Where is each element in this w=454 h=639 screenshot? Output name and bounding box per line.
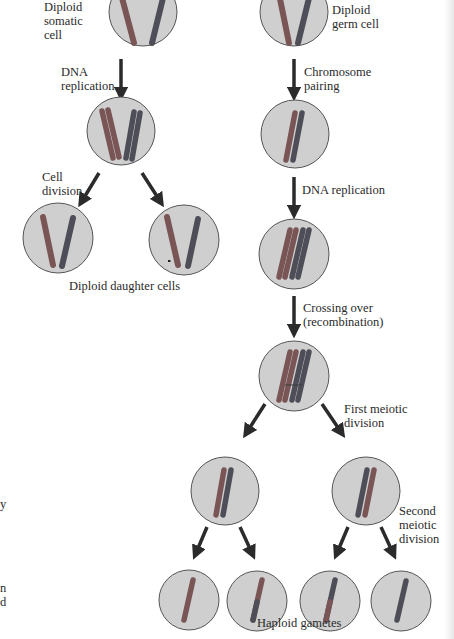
arrow-first-meiotic-right xyxy=(322,404,341,432)
cell-diploid-somatic xyxy=(109,0,177,46)
cell-haploid-gamete-1 xyxy=(159,570,219,630)
label-chromosome-pairing: Chromosome pairing xyxy=(304,65,371,93)
cell-replicated-tetrad xyxy=(259,219,329,289)
cell-crossing-over xyxy=(259,341,329,411)
label-haploid-gametes: Haploid gametes xyxy=(257,616,341,630)
cell-chromosome-paired xyxy=(261,100,329,168)
label-diploid-daughter-cells: Diploid daughter cells xyxy=(69,279,180,293)
arrow-cell-division-right xyxy=(142,173,160,201)
label-cell-division: Cell division xyxy=(42,170,82,198)
cell-meiosis-i-product-1 xyxy=(191,457,259,525)
label-first-meiotic-division: First meiotic division xyxy=(344,402,408,430)
label-second-meiotic-division: Second meiotic division xyxy=(399,504,439,546)
arrow-second-meiotic-1 xyxy=(196,527,207,553)
label-dna-replication-right: DNA replication xyxy=(302,183,385,197)
cell-haploid-gamete-4 xyxy=(371,571,431,631)
label-diploid-germ-cell: Diploid germ cell xyxy=(332,3,379,31)
edge-text-fragment-2: n d xyxy=(0,581,6,609)
arrow-second-meiotic-2 xyxy=(240,527,252,553)
cell-diploid-daughter-1 xyxy=(23,203,93,273)
edge-text-fragment-1: y xyxy=(0,497,6,511)
mitosis-meiosis-diagram xyxy=(0,0,454,639)
arrow-second-meiotic-4 xyxy=(381,527,393,553)
arrow-first-meiotic-left xyxy=(247,404,265,432)
label-dna-replication-left: DNA replication xyxy=(61,65,114,93)
cell-diploid-daughter-2 xyxy=(149,205,219,275)
label-crossing-over: Crossing over (recombination) xyxy=(303,301,384,329)
page-edge-shadow xyxy=(444,0,454,639)
cell-meiosis-i-product-2 xyxy=(332,457,400,525)
arrow-second-meiotic-3 xyxy=(337,527,348,553)
cell-replicated-somatic xyxy=(87,97,155,165)
label-diploid-somatic-cell: Diploid somatic cell xyxy=(44,0,83,42)
arrow-cell-division-left xyxy=(82,173,99,201)
cell-diploid-germ xyxy=(260,0,328,46)
